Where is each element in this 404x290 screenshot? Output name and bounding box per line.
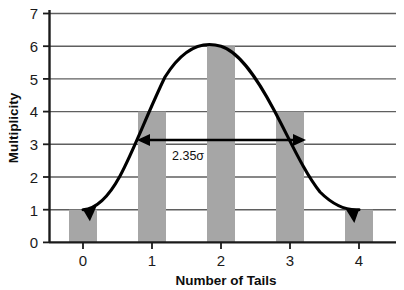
y-axis-title: Multiplicity xyxy=(6,92,21,163)
x-tick-label-1: 1 xyxy=(148,252,156,269)
x-tick-label-0: 0 xyxy=(79,252,87,269)
y-tick-label-4: 4 xyxy=(30,103,38,120)
multiplicity-bar-chart: 2.35σ 7 6 5 4 3 2 1 0 xyxy=(0,0,404,290)
y-tick-label-6: 6 xyxy=(30,38,38,55)
x-tick-label-2: 2 xyxy=(217,252,225,269)
x-tick-label-3: 3 xyxy=(286,252,294,269)
x-tick-label-4: 4 xyxy=(355,252,363,269)
bar-2 xyxy=(207,46,235,242)
y-tick-label-3: 3 xyxy=(30,136,38,153)
y-tick-label-1: 1 xyxy=(30,202,38,219)
y-tick-label-0: 0 xyxy=(30,234,38,251)
bar-3 xyxy=(276,112,304,243)
fwhm-label: 2.35σ xyxy=(172,149,204,163)
y-tick-label-5: 5 xyxy=(30,71,38,88)
chart-container: 2.35σ 7 6 5 4 3 2 1 0 xyxy=(0,0,404,290)
x-axis-title: Number of Tails xyxy=(175,273,276,288)
y-tick-label-2: 2 xyxy=(30,169,38,186)
y-tick-label-7: 7 xyxy=(30,5,38,22)
